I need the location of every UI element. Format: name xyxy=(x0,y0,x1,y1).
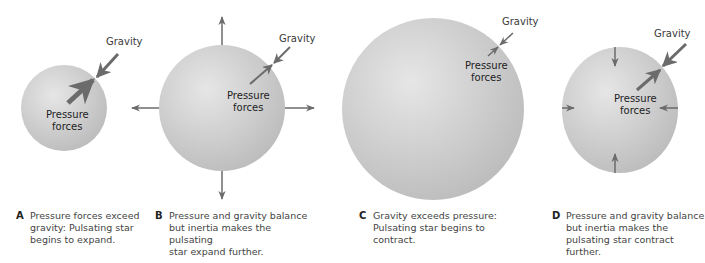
pressure-label-a-line2: forces xyxy=(52,121,82,132)
caption-b-line1: Pressure and gravity balance xyxy=(169,210,309,222)
gravity-label-d: Gravity xyxy=(654,28,691,39)
panel-b-diagram: Gravity Pressure forces xyxy=(132,17,316,199)
caption-b-letter: B xyxy=(155,210,163,222)
caption-d-line1: Pressure and gravity balance xyxy=(566,210,705,222)
gravity-arrow-c xyxy=(500,33,513,45)
pressure-label-c-line2: forces xyxy=(471,72,501,83)
caption-b-line2: but inertia makes the pulsating xyxy=(169,222,309,246)
caption-c-line1: Gravity exceeds pressure: xyxy=(373,210,523,222)
caption-d-letter: D xyxy=(552,210,560,222)
gravity-arrow-a xyxy=(97,54,118,77)
pressure-label-d-line1: Pressure xyxy=(614,93,657,104)
caption-d-line3: pulsating star contract further. xyxy=(566,234,705,258)
gravity-label-c: Gravity xyxy=(502,16,539,27)
caption-c-letter: C xyxy=(359,210,366,222)
caption-a-line3: begins to expand. xyxy=(30,234,150,246)
caption-a-line2: gravity: Pulsating star xyxy=(30,222,150,234)
pressure-label-c-line1: Pressure xyxy=(465,60,508,71)
pressure-label-a-line1: Pressure xyxy=(46,109,89,120)
caption-d-line2: but inertia makes the xyxy=(566,222,705,234)
panel-c-diagram: Gravity Pressure forces xyxy=(342,16,539,200)
caption-a-letter: A xyxy=(16,210,24,222)
caption-c-line2: Pulsating star begins to contract. xyxy=(373,222,523,246)
panel-a-diagram: Gravity Pressure forces xyxy=(21,36,143,151)
star-c xyxy=(342,18,524,200)
pressure-label-d-line2: forces xyxy=(620,105,650,116)
pressure-label-b-line1: Pressure xyxy=(227,90,270,101)
caption-a: A Pressure forces exceed gravity: Pulsat… xyxy=(30,210,150,246)
gravity-label-a: Gravity xyxy=(106,36,143,47)
panel-d-diagram: Gravity Pressure forces xyxy=(562,28,691,173)
caption-c: C Gravity exceeds pressure: Pulsating st… xyxy=(373,210,523,246)
gravity-arrow-d xyxy=(663,44,686,66)
star-b xyxy=(159,45,285,171)
caption-b-line3: star expand further. xyxy=(169,246,309,258)
caption-b: B Pressure and gravity balance but inert… xyxy=(169,210,309,258)
caption-a-line1: Pressure forces exceed xyxy=(30,210,150,222)
pressure-label-b-line2: forces xyxy=(233,102,263,113)
star-a xyxy=(21,65,107,151)
gravity-arrow-b xyxy=(274,47,290,63)
gravity-label-b: Gravity xyxy=(279,33,316,44)
caption-d: D Pressure and gravity balance but inert… xyxy=(566,210,705,258)
